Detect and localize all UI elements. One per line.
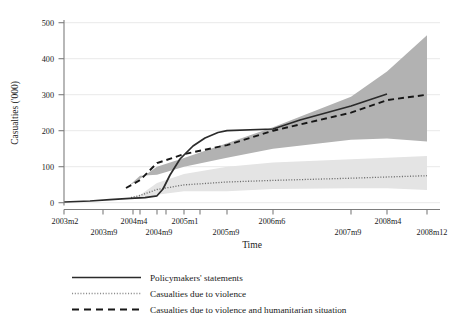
x-tick-label-2008m4: 2008m4: [375, 217, 402, 226]
x-tick-label-2004m4: 2004m4: [121, 217, 148, 226]
y-tick-label-100: 100: [42, 163, 54, 172]
legend-label-casualties-violence: Casualties due to violence: [150, 289, 246, 299]
casualties-line-chart: 500 400 300 200 100 0 Casualties ('000) …: [0, 0, 463, 330]
x-tick-label-2005m1: 2005m1: [172, 217, 199, 226]
x-tick-label-2008m12: 2008m12: [417, 228, 448, 237]
chart-figure: 500 400 300 200 100 0 Casualties ('000) …: [0, 0, 463, 330]
y-axis-title: Casualties ('000): [10, 81, 21, 145]
y-tick-label-200: 200: [42, 127, 54, 136]
x-axis-title: Time: [242, 240, 262, 250]
y-tick-label-300: 300: [42, 91, 54, 100]
legend-label-policymakers-statements: Policymakers' statements: [150, 273, 243, 283]
x-tick-label-2004m9: 2004m9: [146, 228, 173, 237]
y-tick-label-0: 0: [50, 199, 54, 208]
x-tick-label-2003m2: 2003m2: [52, 217, 79, 226]
x-tick-label-2006m6: 2006m6: [259, 217, 286, 226]
x-tick-label-2007m9: 2007m9: [335, 228, 362, 237]
x-tick-label-2005m9: 2005m9: [213, 228, 240, 237]
legend-label-casualties-violence-humanitarian: Casualties due to violence and humanitar…: [150, 305, 347, 315]
x-tick-label-2003m9: 2003m9: [91, 228, 118, 237]
y-tick-label-500: 500: [42, 19, 54, 28]
y-tick-label-400: 400: [42, 55, 54, 64]
